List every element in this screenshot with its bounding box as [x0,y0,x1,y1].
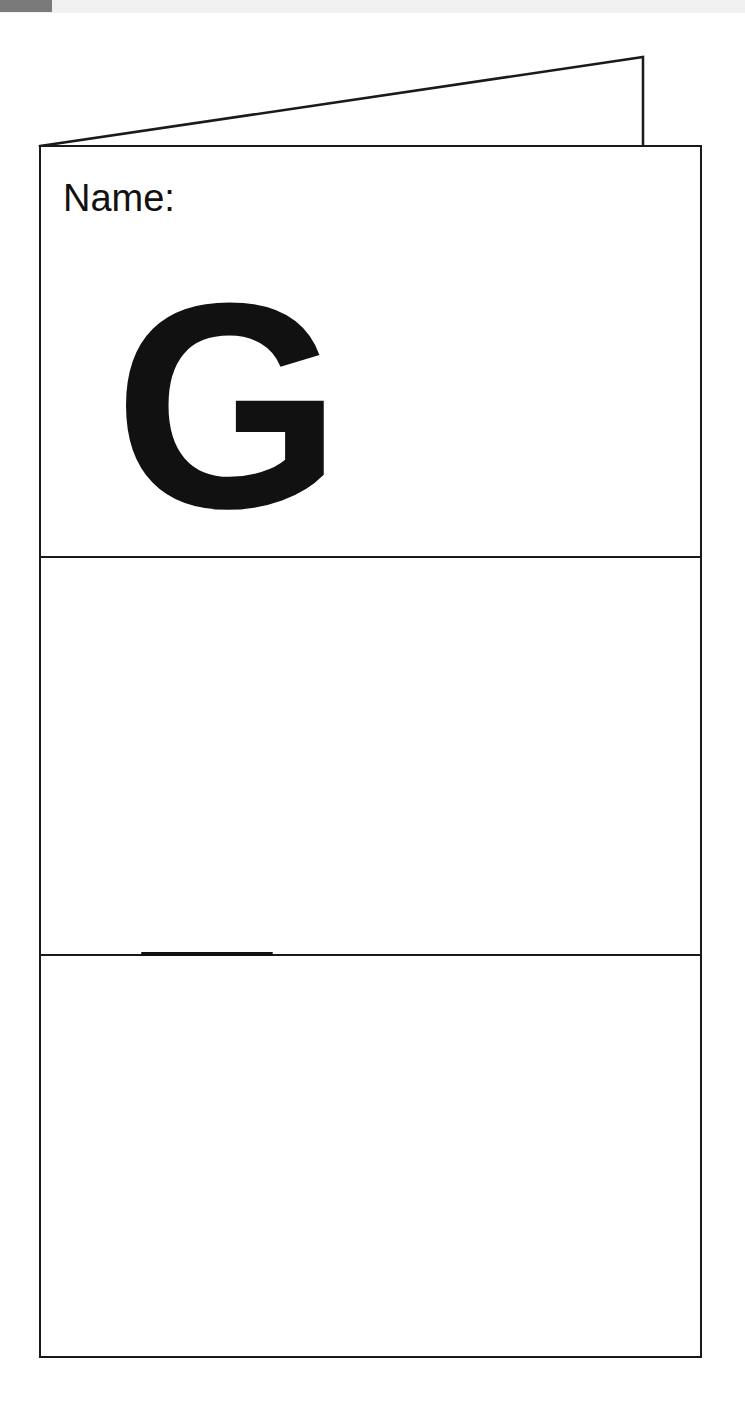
panel-letter-g: Name: G [41,147,700,558]
scan-artifact-block [0,0,52,12]
panel-letter-e: E [41,558,700,956]
letter-glyph-g: G [114,259,342,552]
name-field-label: Name: [63,179,175,217]
scan-edge-strip [0,0,745,13]
panel-letter-l: L [41,956,700,1356]
foldable-card: Name: G E L [39,145,702,1358]
worksheet-page: Name: G E L [0,0,745,1414]
